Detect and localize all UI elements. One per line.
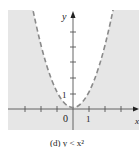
inequality-graph: y 1 0 1 x (d) y < x²	[0, 0, 139, 147]
x-tick-label-1: 1	[86, 114, 91, 124]
x-axis-label: x	[134, 116, 139, 126]
caption: (d) y < x²	[50, 138, 84, 147]
origin-label: 0	[63, 113, 68, 124]
y-tick-label-1: 1	[62, 90, 67, 100]
y-axis-label: y	[61, 11, 67, 22]
shaded-region	[8, 0, 139, 130]
